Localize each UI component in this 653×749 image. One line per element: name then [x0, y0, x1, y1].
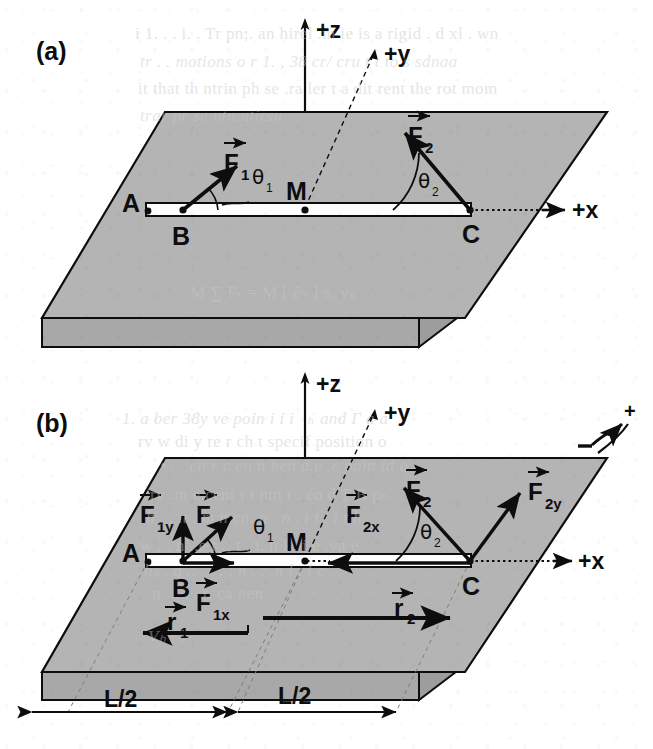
svg-text:2: 2: [423, 493, 431, 510]
svg-text:1y: 1y: [157, 518, 174, 535]
panel-b-point-C-label: C: [462, 572, 480, 600]
svg-text:F: F: [346, 501, 361, 528]
svg-text:r: r: [394, 594, 403, 621]
physics-figure: (a) +z +y +x A B M C F 1 θ 1 F 2: [0, 0, 653, 749]
svg-text:1x: 1x: [213, 606, 230, 623]
svg-text:F: F: [224, 149, 239, 176]
svg-text:2y: 2y: [545, 495, 562, 512]
panel-a-point-C-label: C: [462, 220, 480, 248]
panel-b-dimension-left-label: L/2: [104, 686, 137, 712]
svg-text:θ: θ: [253, 515, 265, 539]
panel-b-rotation-plus-label: +: [624, 400, 636, 422]
svg-text:F: F: [406, 476, 421, 503]
panel-a-point-M-label: M: [286, 177, 307, 205]
panel-a-y-axis-label: +y: [384, 41, 410, 67]
svg-text:F: F: [528, 478, 543, 505]
panel-a-label: (a): [36, 37, 67, 65]
svg-text:F: F: [196, 501, 211, 528]
svg-text:1: 1: [213, 518, 221, 535]
panel-b-point-M-label: M: [286, 528, 307, 556]
panel-a-x-axis-label: +x: [572, 197, 598, 223]
figure-canvas: (a) +z +y +x A B M C F 1 θ 1 F 2: [0, 0, 653, 749]
panel-b-point-B-label: B: [172, 574, 190, 602]
svg-text:2: 2: [407, 610, 415, 627]
svg-text:F: F: [408, 122, 423, 149]
panel-b-rotation-convention: [578, 424, 628, 453]
panel-b-x-axis-label: +x: [578, 548, 604, 574]
panel-b-y-axis-label: +y: [384, 400, 410, 426]
panel-a: (a) +z +y +x A B M C F 1 θ 1 F 2: [36, 17, 607, 347]
svg-text:1: 1: [180, 624, 188, 641]
panel-a-point-A-label: A: [122, 189, 140, 217]
panel-a-point-B-label: B: [172, 222, 190, 250]
svg-text:1: 1: [267, 531, 274, 545]
svg-text:F: F: [140, 501, 155, 528]
panel-b-label: (b): [36, 409, 68, 437]
panel-b-rod: [145, 554, 474, 567]
panel-b-slab: [42, 458, 607, 700]
panel-a-slab: [42, 112, 607, 347]
svg-text:2x: 2x: [363, 518, 380, 535]
svg-text:2: 2: [425, 139, 433, 156]
svg-text:θ: θ: [420, 520, 432, 544]
panel-b-z-axis-label: +z: [316, 371, 341, 397]
svg-text:F: F: [196, 589, 211, 616]
panel-a-z-axis-label: +z: [316, 17, 341, 43]
svg-text:θ: θ: [252, 165, 264, 189]
panel-b-point-A-label: A: [122, 539, 140, 567]
panel-a-rod: [145, 203, 474, 216]
panel-b-dimension-right-label: L/2: [278, 683, 311, 709]
svg-text:θ: θ: [418, 169, 430, 193]
svg-text:2: 2: [432, 185, 439, 199]
svg-text:1: 1: [266, 181, 273, 195]
svg-text:1: 1: [241, 166, 249, 183]
panel-b: +z +y: [32, 371, 636, 712]
svg-text:2: 2: [434, 536, 441, 550]
svg-text:r: r: [167, 608, 176, 635]
